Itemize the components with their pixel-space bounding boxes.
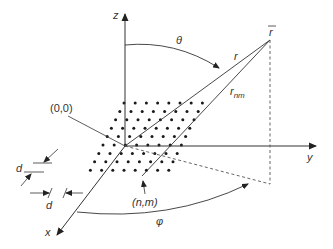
array-element-dot	[170, 118, 173, 121]
array-element-dot	[160, 160, 163, 163]
phi-arc	[77, 184, 248, 214]
array-element-dot	[156, 169, 159, 172]
element-label: (n,m)	[132, 196, 158, 208]
r-projection-ground	[125, 146, 270, 184]
array-element-dot	[125, 118, 128, 121]
array-element-dot	[134, 102, 137, 105]
array-element-dot	[151, 135, 154, 138]
x-axis	[57, 146, 125, 235]
array-element-dot	[165, 152, 168, 155]
array-element-dot	[110, 127, 113, 130]
array-element-dot	[155, 127, 158, 130]
array-element-dot	[138, 160, 141, 163]
array-element-dot	[190, 102, 193, 105]
array-element-dot	[104, 160, 107, 163]
array-element-dot	[117, 135, 120, 138]
array-element-dot	[121, 127, 124, 130]
array-element-dot	[114, 118, 117, 121]
array-element-dot	[145, 102, 148, 105]
planar-array-diagram: z y x (0,0) (n,m) θ φ r r rnm d d	[0, 0, 333, 249]
r-nm-subscript: nm	[234, 91, 245, 100]
array-element-dot	[181, 118, 184, 121]
y-axis-label: y	[306, 151, 314, 163]
array-element-dot	[137, 118, 140, 121]
array-element-dot	[197, 110, 200, 113]
array-element-dot	[144, 127, 147, 130]
r-line	[125, 40, 270, 146]
array-element-dot	[100, 169, 103, 172]
array-element-dot	[149, 160, 152, 163]
array-element-dot	[130, 110, 133, 113]
r-label: r	[234, 50, 239, 62]
theta-arc	[125, 44, 219, 68]
array-element-dot	[177, 127, 180, 130]
array-element-dot	[166, 127, 169, 130]
array-element-dot	[102, 144, 105, 147]
array-element-dot	[132, 127, 135, 130]
phi-label: φ	[156, 215, 163, 227]
array-element-dot	[111, 169, 114, 172]
array-element-dot	[163, 110, 166, 113]
array-element-dot	[167, 102, 170, 105]
array-element-dot	[179, 102, 182, 105]
origin-label: (0,0)	[50, 102, 73, 114]
array-element-dot	[201, 102, 204, 105]
array-element-dot	[134, 169, 137, 172]
array-element-dot	[116, 160, 119, 163]
element-pointer	[143, 181, 145, 194]
array-element-dot	[113, 144, 116, 147]
d-vertical-label: d	[16, 162, 23, 174]
theta-label: θ	[176, 34, 182, 46]
array-element-dot	[172, 160, 175, 163]
array-element-dot	[127, 160, 130, 163]
array-element-dot	[162, 135, 165, 138]
array-element-dot	[152, 110, 155, 113]
r-nm-label: rnm	[230, 85, 245, 100]
r-vector-label: r	[269, 26, 274, 38]
array-element-dot	[93, 160, 96, 163]
array-element-dot	[167, 169, 170, 172]
array-element-dot	[142, 152, 145, 155]
element-grid	[89, 102, 204, 172]
array-element-dot	[174, 110, 177, 113]
array-element-dot	[188, 127, 191, 130]
array-element-dot	[186, 110, 189, 113]
array-element-dot	[128, 135, 131, 138]
d-spacing-arrow-bottom	[21, 174, 31, 186]
d-spacing-arrow-top	[44, 149, 58, 162]
array-element-dot	[184, 135, 187, 138]
array-element-dot	[141, 110, 144, 113]
array-element-dot	[176, 152, 179, 155]
array-element-dot	[156, 102, 159, 105]
array-element-dot	[131, 152, 134, 155]
d-horizontal-label: d	[46, 199, 53, 211]
array-element-dot	[118, 110, 121, 113]
array-element-dot	[173, 135, 176, 138]
array-element-dot	[123, 169, 126, 172]
array-element-dot	[97, 152, 100, 155]
x-axis-label: x	[44, 226, 51, 238]
array-element-dot	[109, 152, 112, 155]
z-axis-label: z	[112, 9, 119, 21]
array-element-dot	[148, 118, 151, 121]
array-element-dot	[89, 169, 92, 172]
